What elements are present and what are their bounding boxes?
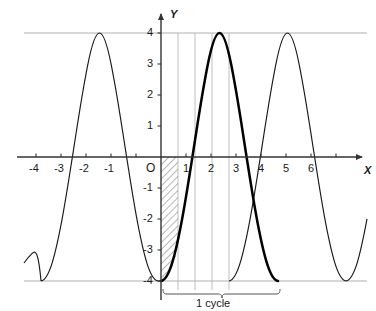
x-tick-label--1: -1 (104, 163, 114, 174)
y-tick-label-3: 3 (147, 58, 153, 69)
trig-graph-svg (0, 0, 376, 311)
x-axis-label: X (364, 165, 371, 176)
x-axis (17, 154, 362, 158)
y-tick-label-1: 1 (147, 120, 153, 131)
cycle-annotation-label: 1 cycle (196, 298, 230, 309)
x-tick-label-3: 3 (233, 163, 239, 174)
x-tick-label-2: 2 (208, 163, 214, 174)
y-tick-label--4: -4 (143, 275, 153, 286)
hatched-region (161, 157, 178, 281)
x-tick-label-4: 4 (258, 163, 264, 174)
graph-figure: -4 -3 -2 -1 O 1 2 3 4 5 6 4 3 2 1 -1 -2 … (0, 0, 376, 311)
x-tick-label--3: -3 (54, 163, 64, 174)
y-axis-label: Y (170, 9, 177, 20)
y-tick-label-2: 2 (147, 89, 153, 100)
x-tick-label--4: -4 (29, 163, 39, 174)
x-tick-label-5: 5 (283, 163, 289, 174)
origin-label: O (146, 162, 155, 174)
y-tick-label--2: -2 (143, 213, 153, 224)
x-tick-label-6: 6 (308, 163, 314, 174)
y-tick-label-4: 4 (147, 27, 153, 38)
x-tick-label-1: 1 (183, 163, 189, 174)
y-tick-label--1: -1 (143, 182, 153, 193)
y-tick-label--3: -3 (143, 244, 153, 255)
x-tick-label--2: -2 (79, 163, 89, 174)
